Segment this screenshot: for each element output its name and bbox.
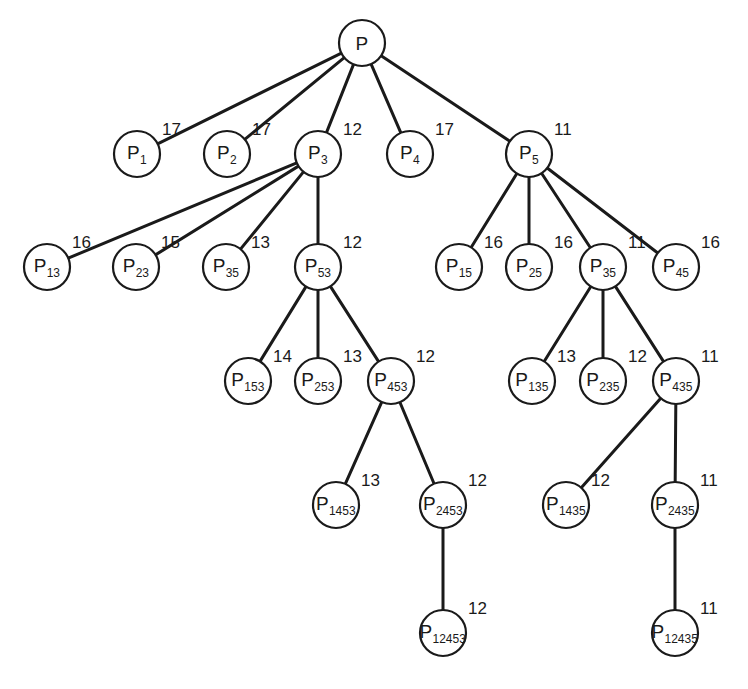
node-subscript: 25 (529, 266, 543, 280)
tree-node: P4516 (653, 233, 720, 290)
node-subscript: 23 (136, 266, 150, 280)
node-label: P (213, 255, 226, 276)
tree-node: P417 (387, 120, 454, 177)
node-subscript: 45 (676, 266, 690, 280)
node-cost: 12 (591, 471, 610, 490)
node-cost: 16 (484, 233, 503, 252)
node-label: P (423, 493, 436, 514)
node-cost: 17 (252, 120, 271, 139)
node-label: P (590, 255, 603, 276)
node-label: P (652, 621, 665, 642)
node-cost: 11 (701, 347, 719, 366)
node-cost: 13 (251, 233, 270, 252)
node-subscript: 453 (387, 380, 407, 394)
node-label: P (316, 493, 329, 514)
tree-node: P1243511 (652, 599, 718, 656)
tree-node: P3513 (203, 233, 270, 290)
tree-node: P3511 (580, 233, 646, 290)
node-cost: 13 (343, 347, 362, 366)
tree-node: P (339, 20, 385, 66)
node-label: P (515, 369, 528, 390)
node-label: P (655, 493, 668, 514)
node-cost: 14 (273, 347, 292, 366)
tree-node: P2315 (113, 233, 180, 290)
node-subscript: 12453 (433, 632, 467, 646)
node-subscript: 13 (47, 266, 61, 280)
node-cost: 11 (554, 120, 572, 139)
node-cost: 12 (343, 233, 362, 252)
tree-node: P1316 (24, 233, 91, 290)
tree-node: P511 (506, 120, 572, 177)
node-cost: 12 (468, 599, 487, 618)
node-subscript: 53 (318, 266, 332, 280)
tree-nodes: PP117P217P312P417P511P1316P2315P3513P531… (24, 20, 720, 656)
node-cost: 17 (162, 120, 181, 139)
tree-node: P23512 (580, 347, 647, 404)
node-label: P (301, 369, 314, 390)
node-label: P (586, 369, 599, 390)
tree-node: P13513 (509, 347, 576, 404)
node-cost: 12 (416, 347, 435, 366)
node-subscript: 12435 (665, 632, 699, 646)
node-cost: 12 (628, 347, 647, 366)
tree-node: P25313 (295, 347, 362, 404)
node-cost: 11 (700, 599, 718, 618)
node-label: P (400, 142, 413, 163)
node-cost: 17 (435, 120, 454, 139)
node-label: P (231, 369, 244, 390)
node-subscript: 4 (413, 153, 420, 167)
node-cost: 11 (628, 233, 646, 252)
tree-node: P143512 (543, 471, 610, 528)
node-subscript: 1 (140, 153, 147, 167)
node-label: P (446, 255, 459, 276)
node-label: P (305, 255, 318, 276)
node-subscript: 2435 (668, 504, 695, 518)
tree-edge (371, 64, 401, 133)
node-subscript: 235 (599, 380, 619, 394)
node-subscript: 1453 (329, 504, 356, 518)
node-label: P (34, 255, 47, 276)
node-cost: 16 (701, 233, 720, 252)
tree-node: P243511 (652, 471, 718, 528)
node-cost: 15 (161, 233, 180, 252)
tree-node: P45312 (368, 347, 435, 404)
tree-edge (400, 402, 434, 484)
node-subscript: 135 (528, 380, 548, 394)
node-subscript: 153 (244, 380, 264, 394)
tree-edge (675, 404, 676, 482)
node-subscript: 5 (532, 153, 539, 167)
tree-edge (158, 53, 342, 144)
tree-node: P43511 (653, 347, 719, 404)
tree-node: P117 (114, 120, 181, 177)
node-cost: 16 (72, 233, 91, 252)
node-label: P (659, 369, 672, 390)
node-label: P (127, 142, 140, 163)
node-label: P (516, 255, 529, 276)
search-tree-diagram: PP117P217P312P417P511P1316P2315P3513P531… (0, 0, 748, 689)
node-subscript: 2453 (436, 504, 463, 518)
node-label: P (420, 621, 433, 642)
tree-node: P245312 (420, 471, 487, 528)
node-label: P (356, 33, 369, 54)
node-cost: 13 (361, 471, 380, 490)
node-subscript: 3 (321, 153, 328, 167)
node-cost: 12 (343, 120, 362, 139)
node-cost: 11 (700, 471, 718, 490)
node-label: P (123, 255, 136, 276)
node-cost: 16 (554, 233, 573, 252)
tree-node: P5312 (295, 233, 362, 290)
node-subscript: 2 (230, 153, 237, 167)
node-subscript: 253 (314, 380, 334, 394)
node-label: P (308, 142, 321, 163)
node-cost: 13 (557, 347, 576, 366)
tree-edges (68, 53, 676, 610)
node-label: P (374, 369, 387, 390)
node-label: P (663, 255, 676, 276)
node-label: P (546, 493, 559, 514)
tree-node: P1245312 (420, 599, 487, 656)
node-subscript: 15 (459, 266, 473, 280)
node-subscript: 435 (672, 380, 692, 394)
node-subscript: 1435 (559, 504, 586, 518)
tree-node: P1516 (436, 233, 503, 290)
node-label: P (217, 142, 230, 163)
